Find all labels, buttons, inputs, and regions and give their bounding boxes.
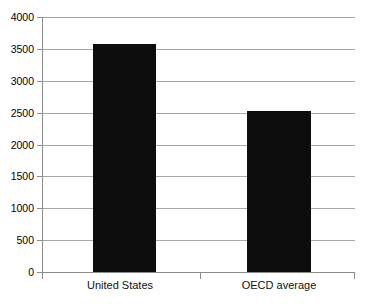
y-tick-2500	[37, 113, 42, 114]
bar-chart-figure: 4000 3500 3000 2500 2000 1500 1000 500 0…	[0, 0, 367, 305]
y-tick-label-0: 0	[0, 267, 34, 278]
gridline-3500	[42, 49, 355, 50]
y-tick-label-1500: 1500	[0, 171, 34, 182]
y-tick-label-3500: 3500	[0, 44, 34, 55]
gridline-4000	[42, 17, 355, 18]
y-tick-3500	[37, 49, 42, 50]
clipped-source-caption	[38, 297, 338, 305]
y-tick-1000	[37, 208, 42, 209]
gridline-3000	[42, 81, 355, 82]
bar-oecd-average	[247, 111, 311, 272]
bar-united-states	[93, 44, 156, 272]
y-tick-1500	[37, 176, 42, 177]
y-tick-label-2500: 2500	[0, 108, 34, 119]
x-axis-baseline	[42, 272, 355, 273]
y-tick-label-1000: 1000	[0, 203, 34, 214]
y-tick-label-500: 500	[0, 235, 34, 246]
y-axis-line	[42, 17, 43, 273]
x-tick-end	[354, 273, 355, 279]
y-tick-500	[37, 240, 42, 241]
y-tick-label-2000: 2000	[0, 140, 34, 151]
x-tick-divider	[200, 273, 201, 279]
x-axis-label-united-states: United States	[61, 279, 179, 292]
y-tick-4000	[37, 17, 42, 18]
y-tick-label-3000: 3000	[0, 76, 34, 87]
x-tick-start	[42, 273, 43, 279]
y-tick-3000	[37, 81, 42, 82]
y-tick-2000	[37, 145, 42, 146]
y-tick-label-4000: 4000	[0, 12, 34, 23]
x-axis-label-oecd-average: OECD average	[220, 279, 338, 292]
